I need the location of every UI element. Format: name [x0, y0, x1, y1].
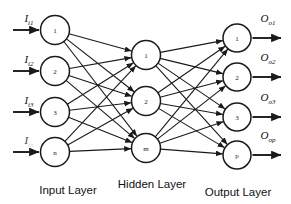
node-label: m: [143, 145, 149, 153]
node-hidden-m[interactable]: m: [132, 134, 161, 163]
node-hidden-1[interactable]: 1: [132, 41, 161, 70]
output-signal-label: Oo3: [261, 91, 276, 106]
network-canvas: 123n12m123p Ii1Ii2Ii3IinOo1Oo2Oo3Oop Inp…: [0, 0, 291, 204]
node-label: 2: [144, 98, 148, 106]
node-label: 1: [144, 52, 148, 60]
edges-hidden-to-output: [155, 41, 228, 154]
nodes: 123n12m123p: [41, 16, 252, 170]
connection-edge: [69, 76, 132, 97]
node-output-p[interactable]: p: [223, 141, 251, 169]
node-label: p: [235, 152, 239, 160]
node-input-3[interactable]: 3: [41, 98, 70, 127]
node-label: 3: [235, 114, 239, 122]
neural-network-diagram: 123n12m123p Ii1Ii2Ii3IinOo1Oo2Oo3Oop Inp…: [0, 0, 291, 204]
layer-caption-output: Output Layer: [205, 186, 272, 198]
layer-caption-input: Input Layer: [39, 184, 97, 196]
node-input-n[interactable]: n: [41, 138, 70, 167]
connection-edge: [69, 58, 131, 69]
connection-edge: [158, 108, 224, 147]
node-label: 2: [53, 68, 57, 76]
node-input-1[interactable]: 1: [41, 16, 70, 45]
layer-caption-hidden: Hidden Layer: [118, 178, 187, 190]
node-label: 2: [235, 74, 239, 82]
node-label: 3: [53, 109, 57, 117]
node-label: 1: [53, 27, 57, 35]
connection-edge: [64, 41, 137, 136]
input-signal-label: Ii1: [23, 12, 33, 27]
node-hidden-2[interactable]: 2: [132, 87, 161, 116]
node-output-2[interactable]: 2: [223, 63, 251, 91]
connection-edge: [160, 122, 224, 144]
node-input-2[interactable]: 2: [41, 57, 70, 86]
output-signal-label: Oop: [261, 129, 276, 144]
node-label: 1: [235, 35, 239, 43]
connection-edge: [69, 149, 131, 152]
node-output-3[interactable]: 3: [223, 103, 251, 131]
input-signal-label: Ii2: [23, 53, 34, 68]
connection-edge: [160, 149, 222, 154]
input-signal-label: Ii3: [23, 94, 34, 109]
output-signal-label: Oo2: [261, 51, 276, 66]
node-output-1[interactable]: 1: [223, 24, 251, 52]
edges-input-to-hidden: [64, 34, 137, 152]
connection-edge: [160, 41, 222, 53]
input-signal-label: Iin: [23, 134, 34, 149]
layer-captions: Input LayerHidden LayerOutput Layer: [39, 178, 271, 198]
node-label: n: [53, 149, 57, 157]
output-signal-label: Oo1: [261, 12, 276, 27]
